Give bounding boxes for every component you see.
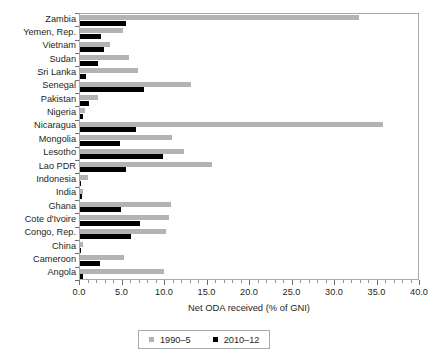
bar xyxy=(80,122,383,127)
x-axis-tick-label: 30.0 xyxy=(314,287,354,297)
y-axis-tick-label: Pakistan xyxy=(0,95,76,104)
y-axis-tick-label: Nicaragua xyxy=(0,121,76,130)
x-axis-tick-major xyxy=(377,280,378,285)
bar-group xyxy=(80,107,418,120)
y-axis-tick xyxy=(75,267,79,268)
y-axis-tick xyxy=(75,187,79,188)
x-axis-tick-minor xyxy=(190,280,191,283)
x-axis-tick-minor xyxy=(343,280,344,283)
x-axis-title: Net ODA received (% of GNI) xyxy=(79,302,419,313)
x-axis-tick-minor xyxy=(198,280,199,283)
x-axis-tick-minor xyxy=(147,280,148,283)
y-axis-tick-label: Lesotho xyxy=(0,148,76,157)
y-axis-tick-label: Cote d'Ivoire xyxy=(0,215,76,224)
x-axis-tick-minor xyxy=(96,280,97,283)
bar-group xyxy=(80,214,418,227)
bar-group xyxy=(80,241,418,254)
y-axis-tick xyxy=(75,133,79,134)
x-axis-tick-minor xyxy=(300,280,301,283)
x-axis-tick-minor xyxy=(156,280,157,283)
x-axis-tick-minor xyxy=(275,280,276,283)
y-axis-labels: ZambiaYemen, Rep.VietnamSudanSri LankaSe… xyxy=(0,13,76,280)
x-axis-tick-major xyxy=(164,280,165,285)
y-axis-tick xyxy=(75,200,79,201)
bar xyxy=(80,194,82,199)
y-axis-tick xyxy=(75,227,79,228)
x-axis-tick-major xyxy=(122,280,123,285)
bar xyxy=(80,21,126,26)
y-axis-tick-label: Sudan xyxy=(0,55,76,64)
bar xyxy=(80,61,98,66)
bar xyxy=(80,269,164,274)
bar xyxy=(80,274,83,279)
bar xyxy=(80,95,98,100)
y-axis-tick xyxy=(75,13,79,14)
x-axis-tick-label: 35.0 xyxy=(357,287,397,297)
y-axis-tick xyxy=(75,120,79,121)
bar xyxy=(80,47,104,52)
bar-group xyxy=(80,54,418,67)
x-axis: 0.05.010.015.020.025.030.035.040.0 Net O… xyxy=(0,280,448,320)
legend-swatch-icon xyxy=(149,337,154,342)
x-axis-tick-label: 25.0 xyxy=(272,287,312,297)
x-axis-tick-major xyxy=(292,280,293,285)
y-axis-tick-label: Nigeria xyxy=(0,108,76,117)
y-axis-tick-label: Congo, Rep. xyxy=(0,228,76,237)
y-axis-tick xyxy=(75,26,79,27)
y-axis-tick-label: Senegal xyxy=(0,81,76,90)
bar xyxy=(80,15,359,20)
x-axis-tick-major xyxy=(334,280,335,285)
x-axis-tick-major xyxy=(249,280,250,285)
y-axis-tick-label: Lao PDR xyxy=(0,162,76,171)
y-axis-tick-label: Mongolia xyxy=(0,135,76,144)
bar xyxy=(80,181,81,186)
x-axis-tick-label: 0.0 xyxy=(59,287,99,297)
x-axis-tick-minor xyxy=(402,280,403,283)
y-axis-tick xyxy=(75,160,79,161)
bar xyxy=(80,87,144,92)
bar xyxy=(80,221,140,226)
x-axis-tick-minor xyxy=(368,280,369,283)
x-axis-tick-minor xyxy=(309,280,310,283)
bar-group xyxy=(80,254,418,267)
x-axis-tick-minor xyxy=(258,280,259,283)
x-axis-tick-label: 15.0 xyxy=(187,287,227,297)
x-axis-tick-minor xyxy=(283,280,284,283)
x-axis-tick-label: 20.0 xyxy=(229,287,269,297)
bar xyxy=(80,167,126,172)
x-axis-tick-minor xyxy=(411,280,412,283)
bar xyxy=(80,175,88,180)
bar xyxy=(80,34,101,39)
bar xyxy=(80,261,100,266)
bar-group xyxy=(80,161,418,174)
bar xyxy=(80,215,169,220)
y-axis-tick xyxy=(75,40,79,41)
x-axis-tick-minor xyxy=(394,280,395,283)
bar xyxy=(80,255,124,260)
bar xyxy=(80,82,191,87)
y-axis-tick-label: India xyxy=(0,188,76,197)
bar xyxy=(80,114,83,119)
bar xyxy=(80,202,171,207)
bar xyxy=(80,149,184,154)
x-axis-tick-minor xyxy=(215,280,216,283)
x-axis-tick-minor xyxy=(360,280,361,283)
y-axis-tick xyxy=(75,53,79,54)
x-axis-tick-minor xyxy=(266,280,267,283)
bar-group xyxy=(80,148,418,161)
x-axis-tick-major xyxy=(207,280,208,285)
x-axis-tick-minor xyxy=(317,280,318,283)
bar xyxy=(80,101,89,106)
bar xyxy=(80,108,85,113)
y-axis-tick xyxy=(75,240,79,241)
x-axis-tick-minor xyxy=(326,280,327,283)
x-axis-tick-minor xyxy=(232,280,233,283)
bar-group xyxy=(80,121,418,134)
x-axis-tick-major xyxy=(419,280,420,285)
y-axis-tick xyxy=(75,213,79,214)
y-axis-tick-label: Angola xyxy=(0,268,76,277)
bar-group xyxy=(80,268,418,281)
bar-group xyxy=(80,67,418,80)
x-axis-tick-minor xyxy=(173,280,174,283)
y-axis-tick xyxy=(75,106,79,107)
